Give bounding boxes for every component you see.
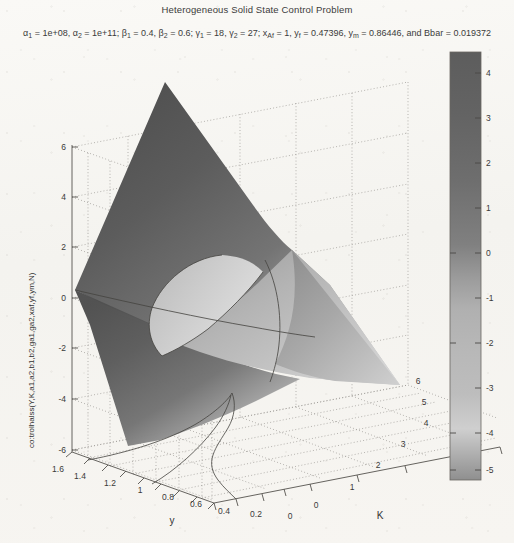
y-tick-label: 2: [376, 460, 381, 470]
colorbar-tick-label: -3: [486, 383, 494, 393]
x-tick-label: 1.4: [74, 471, 86, 481]
z-tick-label: 6: [61, 142, 66, 152]
x-tick-label: 0.6: [190, 499, 202, 509]
x-tick-label: 1.2: [104, 478, 116, 488]
colorbar-tick-label: -5: [486, 465, 494, 475]
colorbar-tick-label: -1: [486, 293, 494, 303]
y-tick-label: 3: [401, 439, 406, 449]
z-tick-label: 0: [61, 293, 66, 303]
surface-mesh: [75, 82, 400, 446]
x-tick-label: 0.8: [162, 492, 174, 502]
z-tick-label: 4: [61, 192, 66, 202]
surface-plot-figure: 6 4 2 0 -2 -4 -6 co:trolhalss(Y,K,a1,a2,…: [0, 0, 514, 543]
colorbar-tick-label: 1: [486, 203, 491, 213]
x-axis: 1.6 1.4 1.2 1 0.8 0.6 0.4 0.2 0: [52, 452, 293, 521]
x-axis-name: y: [170, 515, 175, 526]
z-tick-label: -4: [58, 394, 66, 404]
y-tick-label: 5: [422, 397, 427, 407]
colorbar-tick-label: 2: [486, 158, 491, 168]
z-tick-label: 2: [61, 242, 66, 252]
y-axis-name: K: [377, 510, 384, 521]
x-tick-label: 0: [288, 511, 293, 521]
y-tick-label: 4: [424, 418, 429, 428]
y-tick-label: 6: [416, 376, 421, 386]
colorbar-tick-label: 0: [486, 248, 491, 258]
colorbar-tick-label: 3: [486, 113, 491, 123]
z-tick-label: -6: [58, 445, 66, 455]
z-axis-label: co:trolhalss(Y,K,a1,a2,b1,b2,ga1,ga2,xaf…: [27, 272, 36, 448]
colorbar-tick-label: 4: [486, 68, 491, 78]
colorbar[interactable]: 4 3 2 1 0 -1 -2 -3 -4 -5: [450, 52, 494, 480]
z-tick-label: -2: [58, 343, 66, 353]
colorbar-gradient: [450, 52, 481, 480]
x-tick-label: 0.4: [218, 506, 230, 516]
x-tick-label: 1.6: [52, 464, 64, 474]
x-tick-label: 0.2: [250, 509, 262, 519]
colorbar-tick-label: -2: [486, 338, 494, 348]
colorbar-tick-label: -4: [486, 428, 494, 438]
x-tick-label: 1: [138, 485, 143, 495]
y-tick-label: 0: [314, 500, 319, 510]
y-tick-label: 1: [350, 482, 355, 492]
z-axis: 6 4 2 0 -2 -4 -6: [58, 142, 78, 455]
